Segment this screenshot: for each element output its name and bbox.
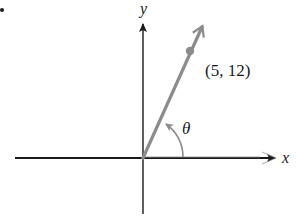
point-5-12 [186,47,194,55]
x-axis-label: x [282,150,289,166]
point-label: (5, 12) [205,62,250,79]
coordinate-diagram: y x (5, 12) θ [0,0,296,219]
figure-marker-dot [0,8,4,12]
theta-arc [166,124,183,157]
theta-label: θ [182,120,190,137]
terminal-ray [143,27,202,158]
diagram-canvas [0,0,296,219]
y-axis-label: y [140,1,147,17]
